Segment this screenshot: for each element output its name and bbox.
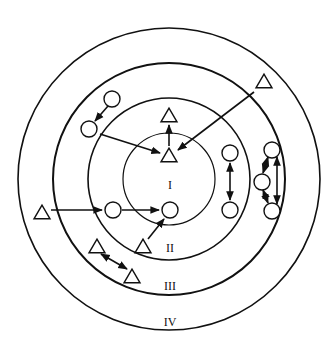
- zone-diagram: IIIIIIIV: [0, 0, 335, 355]
- circle-node: [222, 145, 238, 161]
- circle-node: [104, 91, 120, 107]
- triangle-node: [135, 239, 151, 253]
- triangle-node: [256, 74, 272, 88]
- circle-node: [254, 174, 270, 190]
- zone-label-IV: IV: [164, 315, 177, 329]
- circle-node: [81, 121, 97, 137]
- triangle-node: [34, 205, 50, 219]
- circle-node: [264, 142, 280, 158]
- circle-node: [162, 202, 178, 218]
- circle-node: [105, 202, 121, 218]
- zone-label-II: II: [166, 241, 174, 255]
- bidirectional-arrow: [101, 254, 127, 269]
- triangle-node: [161, 148, 177, 162]
- triangle-node: [89, 239, 105, 253]
- zone-labels: IIIIIIIV: [164, 178, 177, 329]
- triangle-node: [124, 269, 140, 283]
- zone-label-III: III: [164, 279, 176, 293]
- arrow: [95, 106, 108, 121]
- bidirectional-arrow: [263, 157, 268, 173]
- actor-nodes: [34, 74, 280, 283]
- triangle-node: [161, 108, 177, 122]
- arrow: [148, 219, 164, 239]
- circle-node: [222, 202, 238, 218]
- circle-node: [264, 203, 280, 219]
- bidirectional-arrow: [263, 190, 268, 203]
- zone-label-I: I: [168, 178, 172, 192]
